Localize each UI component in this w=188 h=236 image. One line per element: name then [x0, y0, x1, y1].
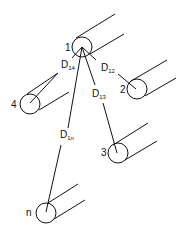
conductor-2-label: 2	[120, 84, 126, 95]
svg-text:D12: D12	[101, 62, 116, 74]
distance-lines	[30, 47, 136, 212]
conductor-n-label: n	[26, 207, 32, 218]
conductor-4-label: 4	[11, 99, 17, 110]
svg-text:D1n: D1n	[60, 129, 74, 141]
distance-label-d12: D12	[101, 62, 116, 74]
conductor-n: n	[26, 184, 85, 223]
distance-label-d1n: D1n	[60, 129, 74, 141]
conductor-diagram: 1 2 3 4 n	[0, 0, 188, 236]
conductor-3: 3	[101, 123, 157, 163]
svg-text:D14: D14	[61, 59, 76, 71]
conductor-1: 1	[65, 14, 124, 57]
conductor-1-label: 1	[65, 42, 71, 53]
conductor-3-label: 3	[101, 147, 107, 158]
distance-label-d14: D14	[61, 59, 76, 71]
svg-text:D13: D13	[92, 88, 107, 100]
conductor-4: 4	[11, 73, 69, 114]
distance-label-d13: D13	[92, 88, 107, 100]
conductor-2: 2	[120, 60, 176, 99]
